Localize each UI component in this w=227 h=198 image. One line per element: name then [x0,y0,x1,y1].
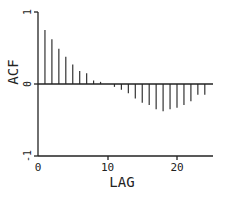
acf-chart: -101 01020 LAG ACF [0,0,227,198]
y-tick-label: -1 [22,150,33,162]
y-tick-label: 0 [22,81,33,87]
y-tick-label: 1 [22,9,33,15]
x-tick-label: 0 [35,161,42,174]
y-axis-label: ACF [5,59,21,84]
x-tick-label: 20 [170,161,183,174]
acf-bars [45,30,205,111]
x-tick-label: 10 [101,161,114,174]
x-axis-label: LAG [109,174,134,190]
